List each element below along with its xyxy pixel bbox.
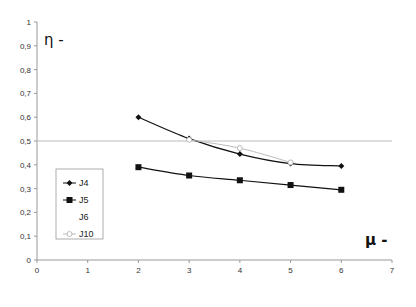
x-tick-label: 0	[35, 266, 40, 275]
x-tick-label: 4	[238, 266, 243, 275]
x-axis-title: μ -	[365, 231, 388, 249]
x-tick-label: 6	[339, 266, 344, 275]
series-layer	[135, 114, 344, 193]
series-j4-marker	[135, 114, 141, 120]
y-tick-label: 0,2	[20, 208, 32, 217]
y-tick-label: 0,3	[20, 185, 32, 194]
x-tick-label: 1	[85, 266, 90, 275]
series-j4-marker	[237, 151, 243, 157]
series-j5-marker	[186, 173, 192, 179]
line-chart: 00,10,20,30,40,50,60,70,80,91 01234567 η…	[0, 0, 416, 307]
x-axis-ticks: 01234567	[35, 260, 395, 275]
y-tick-label: 0,5	[20, 137, 32, 146]
series-j10-marker	[288, 160, 293, 165]
legend-item-j6: J6	[79, 212, 89, 222]
series-line	[138, 117, 341, 166]
series-j5-marker	[338, 187, 344, 193]
y-tick-label: 1	[27, 18, 32, 27]
x-tick-label: 7	[390, 266, 395, 275]
y-axis-title: η -	[44, 31, 64, 49]
series-j5-marker	[288, 182, 294, 188]
legend-label: J5	[79, 195, 89, 205]
x-tick-label: 3	[187, 266, 192, 275]
y-tick-label: 0,8	[20, 66, 32, 75]
series-j4	[135, 114, 344, 169]
series-j5-marker	[237, 177, 243, 183]
legend-marker	[67, 232, 72, 237]
y-tick-label: 0,4	[20, 161, 32, 170]
y-tick-label: 0,7	[20, 89, 32, 98]
y-tick-label: 0,1	[20, 232, 32, 241]
legend: J4J5J6J10	[56, 169, 103, 239]
y-tick-label: 0,9	[20, 42, 32, 51]
series-j4-marker	[338, 163, 344, 169]
y-tick-label: 0	[27, 256, 32, 265]
x-tick-label: 5	[288, 266, 293, 275]
x-tick-label: 2	[136, 266, 141, 275]
legend-marker	[67, 197, 73, 203]
series-j10-marker	[237, 146, 242, 151]
y-axis-ticks: 00,10,20,30,40,50,60,70,80,91	[20, 18, 37, 265]
series-j5	[135, 164, 344, 193]
series-j5-marker	[135, 164, 141, 170]
series-j10-marker	[187, 137, 192, 142]
legend-label: J6	[79, 212, 89, 222]
legend-label: J10	[79, 229, 94, 239]
legend-label: J4	[79, 178, 89, 188]
y-tick-label: 0,6	[20, 113, 32, 122]
